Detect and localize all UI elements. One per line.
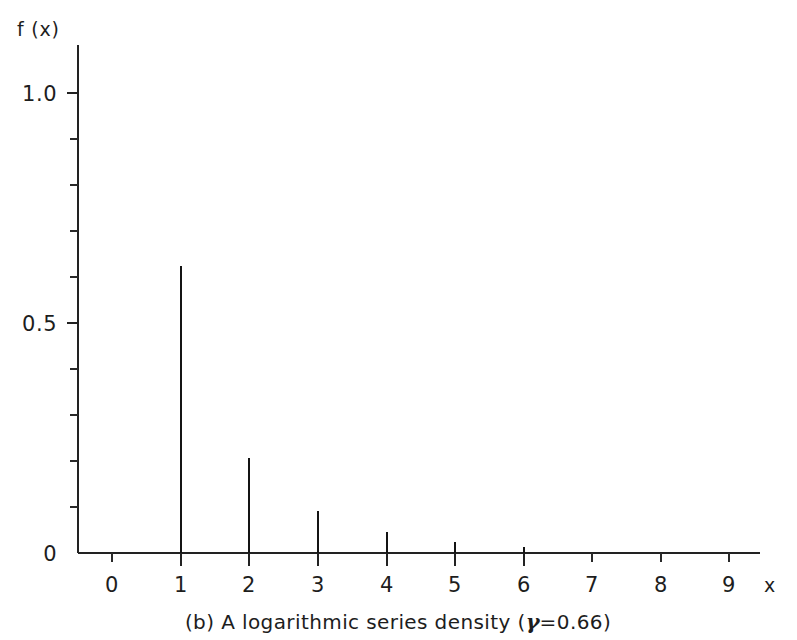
y-axis-label: f (x)	[17, 18, 60, 40]
logarithmic-series-density-chart: 1.0 0.5 0 f (x) 0 1 2 3 4 5 6 7 8 9 x	[0, 0, 797, 640]
x-tick-label-6: 6	[517, 573, 531, 597]
x-tick-label-4: 4	[380, 573, 394, 597]
x-tick-label-0: 0	[105, 573, 119, 597]
x-axis-label: x	[764, 574, 776, 596]
x-tick-label-3: 3	[311, 573, 325, 597]
x-tick-label-7: 7	[585, 573, 599, 597]
x-tick-label-5: 5	[448, 573, 462, 597]
caption-line: (b) A logarithmic series density (γ=0.66…	[185, 609, 611, 634]
y-tick-label-1.0: 1.0	[22, 82, 57, 106]
gamma-symbol: γ	[526, 609, 541, 634]
x-tick-label-1: 1	[174, 573, 188, 597]
figure-container: 1.0 0.5 0 f (x) 0 1 2 3 4 5 6 7 8 9 x	[0, 0, 797, 640]
caption-suffix: =0.66)	[540, 610, 612, 634]
x-tick-label-8: 8	[654, 573, 668, 597]
y-tick-label-0: 0	[43, 542, 57, 566]
chart-background	[0, 0, 797, 640]
figure-caption: (b) A logarithmic series density (γ=0.66…	[185, 609, 611, 634]
x-tick-label-2: 2	[242, 573, 256, 597]
x-tick-label-9: 9	[722, 573, 736, 597]
caption-prefix: (b) A logarithmic series density (	[185, 610, 526, 634]
y-tick-label-0.5: 0.5	[22, 312, 57, 336]
